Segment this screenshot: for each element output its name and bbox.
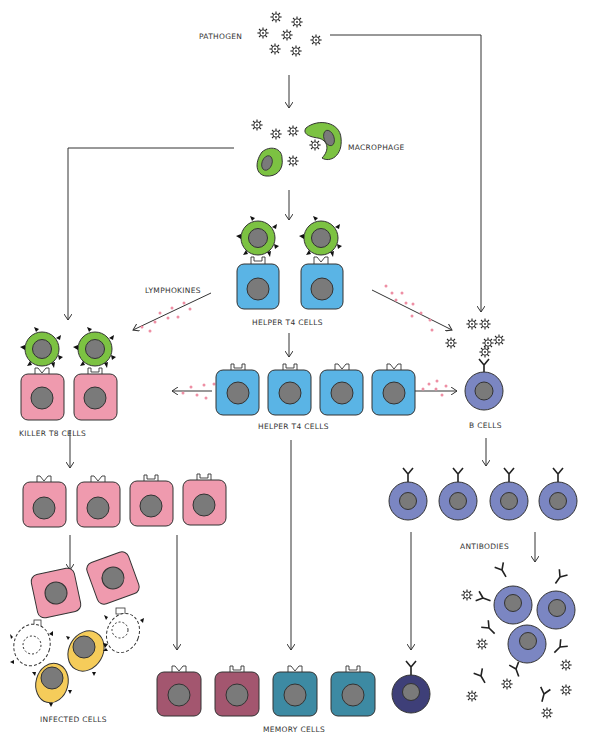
label-macrophage: MACROPHAGE — [348, 143, 405, 152]
label-antibodies: ANTIBODIES — [460, 542, 509, 551]
label-lymphokines: LYMPHOKINES — [145, 286, 201, 295]
killer-t8-top-group — [20, 327, 117, 420]
helper-t4-mid-row — [216, 364, 415, 415]
pathogen-cluster — [257, 11, 321, 56]
b-cell-mid-row — [389, 468, 577, 520]
label-b-cells: B CELLS — [469, 421, 502, 430]
infected-cells-group — [9, 550, 145, 707]
label-killer-t8: KILLER T8 CELLS — [19, 429, 86, 438]
killer-t8-mid-row — [23, 474, 226, 527]
arrows — [68, 35, 535, 650]
label-memory-cells: MEMORY CELLS — [263, 725, 325, 734]
memory-cells-row — [157, 661, 430, 716]
label-infected-cells: INFECTED CELLS — [40, 715, 107, 724]
label-pathogen: PATHOGEN — [199, 32, 242, 41]
immune-response-diagram — [0, 0, 598, 740]
macrophage-cluster — [251, 119, 341, 176]
label-helper-t4-mid: HELPER T4 CELLS — [258, 422, 329, 431]
label-helper-t4-top: HELPER T4 CELLS — [252, 318, 323, 327]
b-cell-group — [445, 318, 504, 410]
helper-t4-top-group — [236, 216, 343, 309]
antibody-cluster — [461, 562, 575, 718]
